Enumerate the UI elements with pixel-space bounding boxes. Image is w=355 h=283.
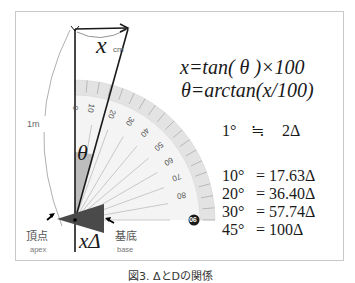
x-arrow-line — [75, 28, 126, 29]
conversion-value: = 57.74Δ — [256, 204, 315, 220]
theta-label: θ — [77, 142, 88, 164]
conversion-value: = 36.40Δ — [256, 186, 315, 202]
approx-left: 1° — [222, 123, 236, 139]
cm-unit-label: cm — [113, 46, 124, 54]
length-label: 1m — [27, 120, 40, 129]
figure-caption: 図3. ΔとDの関係 — [128, 271, 213, 282]
conversion-angle: 20° — [222, 186, 244, 202]
formula-tan: x=tan( θ )×100 — [180, 57, 305, 77]
tick-label-90: 90 — [189, 216, 197, 223]
x-delta-label: xΔ — [79, 231, 101, 252]
formula-arctan: θ=arctan(x/100) — [181, 80, 314, 100]
conversion-value: = 17.63Δ — [256, 168, 315, 184]
apex-point — [73, 218, 77, 222]
tick-label-80: 80 — [176, 190, 186, 199]
conversion-angle: 45° — [222, 222, 244, 238]
apex-jp-label: 頂点 — [26, 231, 48, 242]
approx-right: 2Δ — [282, 123, 300, 139]
base-en-label: base — [117, 246, 133, 254]
base-jp-label: 基底 — [115, 231, 137, 242]
approx-symbol: ≒ — [251, 123, 264, 139]
conversion-angle: 10° — [222, 168, 244, 184]
conversion-value: = 100Δ — [256, 222, 303, 238]
length-arc — [44, 30, 70, 226]
x-variable-label: x — [96, 33, 107, 57]
tick-label-10: 10 — [86, 103, 95, 113]
apex-en-label: apex — [30, 246, 46, 254]
tick-label-0: 0 — [71, 106, 79, 110]
conversion-angle: 30° — [222, 204, 244, 220]
